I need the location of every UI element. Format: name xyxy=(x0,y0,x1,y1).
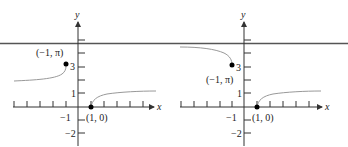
y-tick-neg2: −2 xyxy=(231,128,242,139)
graphs-figure: y x 3 1 −1 −2 xyxy=(0,0,348,147)
y-tick-3: 3 xyxy=(236,62,241,73)
x-axis-label: x xyxy=(156,101,162,112)
y-axis-label: y xyxy=(74,9,80,20)
x-axis-label: x xyxy=(324,101,330,112)
y-tick-1: 1 xyxy=(71,88,76,99)
point-neg1-pi xyxy=(64,62,69,67)
curve-right-branch xyxy=(257,91,321,107)
y-tick-1: 1 xyxy=(237,88,242,99)
y-axis-label: y xyxy=(240,9,246,20)
point-neg1-pi xyxy=(230,63,235,68)
y-ticks xyxy=(244,40,251,133)
point-1-0 xyxy=(89,105,94,110)
point-1-0-label: (1, 0) xyxy=(252,112,274,124)
curve-left-branch xyxy=(14,66,66,81)
point-neg1-pi-label: (−1, π) xyxy=(206,74,233,86)
point-1-0 xyxy=(255,105,260,110)
x-tick-neg1: −1 xyxy=(226,112,237,123)
y-ticks xyxy=(78,40,85,133)
point-1-0-label: (1, 0) xyxy=(86,112,108,124)
y-tick-neg2: −2 xyxy=(65,128,76,139)
x-ticks xyxy=(181,101,309,107)
right-graph: y x 3 1 −1 −2 xyxy=(180,9,330,146)
point-neg1-pi-label: (−1, π) xyxy=(36,47,63,59)
x-tick-neg1: −1 xyxy=(60,112,71,123)
curve-right-branch xyxy=(91,91,156,107)
y-tick-3: 3 xyxy=(70,61,75,72)
curve-left-branch xyxy=(180,47,232,65)
left-graph: y x 3 1 −1 −2 xyxy=(13,9,162,146)
